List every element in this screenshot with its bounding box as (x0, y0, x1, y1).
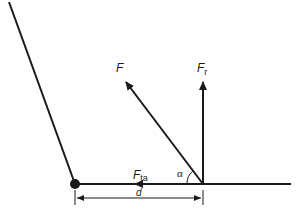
force-diagram: F Fr Fta α d (0, 0, 301, 214)
label-Fta-sub: ta (140, 173, 148, 183)
lever-arm-line (9, 2, 75, 184)
pivot-point (70, 179, 80, 189)
label-Fr: Fr (197, 61, 207, 77)
label-F: F (116, 61, 124, 75)
label-Fr-sub: r (204, 67, 207, 77)
label-d: d (136, 187, 142, 198)
angle-alpha-arc (187, 171, 193, 184)
label-alpha: α (177, 167, 183, 179)
label-Fta: Fta (133, 168, 148, 183)
